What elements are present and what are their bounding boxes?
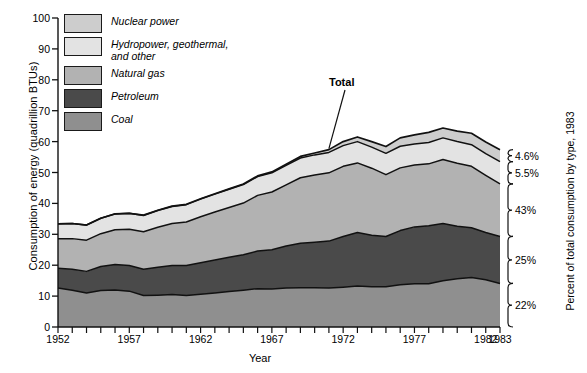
percent-label: 25%	[515, 254, 536, 266]
total-leader-line	[329, 90, 345, 149]
y-tick-label: 20	[22, 260, 50, 270]
x-tick-label: 1983	[480, 334, 520, 345]
legend-swatch-icon	[64, 14, 102, 33]
legend-swatch-icon	[64, 37, 102, 56]
x-tick-label: 1952	[38, 334, 78, 345]
y-tick-label: 90	[22, 44, 50, 54]
y-tick-label: 100	[22, 13, 50, 23]
y-tick-label: 30	[22, 229, 50, 239]
percent-label: 43%	[515, 204, 536, 216]
legend-item-label: Natural gas	[111, 66, 165, 80]
energy-consumption-area-chart: Consumption of energy (quadrillion BTUs)…	[0, 0, 587, 373]
right-axis-bracket	[508, 162, 513, 184]
y-tick-label: 50	[22, 168, 50, 178]
right-axis-bracket	[508, 283, 513, 327]
legend-item[interactable]: Coal	[64, 112, 228, 131]
y-tick-label: 80	[22, 75, 50, 85]
legend-item-label: Coal	[111, 112, 133, 126]
x-tick-label: 1977	[394, 334, 434, 345]
legend: Nuclear powerHydropower, geothermal, and…	[64, 14, 228, 135]
right-axis-bracket	[508, 150, 513, 162]
legend-swatch-icon	[64, 112, 102, 131]
percent-label: 22%	[515, 299, 536, 311]
y-tick-label: 40	[22, 198, 50, 208]
right-axis-bracket	[508, 236, 513, 283]
x-tick-label: 1967	[252, 334, 292, 345]
legend-item-label: Petroleum	[111, 89, 159, 103]
y-tick-label: 10	[22, 291, 50, 301]
x-tick-label: 1972	[323, 334, 363, 345]
legend-item[interactable]: Natural gas	[64, 66, 228, 85]
y-tick-label: 70	[22, 106, 50, 116]
legend-swatch-icon	[64, 89, 102, 108]
legend-item[interactable]: Petroleum	[64, 89, 228, 108]
x-tick-label: 1957	[109, 334, 149, 345]
y-tick-label: 60	[22, 137, 50, 147]
y-tick-label: 0	[22, 322, 50, 332]
percent-label: 5.5%	[515, 167, 539, 179]
legend-item-label: Nuclear power	[111, 14, 179, 28]
percent-label: 4.6%	[515, 150, 539, 162]
legend-item-label: Hydropower, geothermal, and other	[111, 37, 228, 62]
right-axis-bracket	[508, 184, 513, 237]
legend-swatch-icon	[64, 66, 102, 85]
total-annotation-label: Total	[329, 76, 354, 88]
legend-item[interactable]: Hydropower, geothermal, and other	[64, 37, 228, 62]
x-tick-label: 1962	[181, 334, 221, 345]
legend-item[interactable]: Nuclear power	[64, 14, 228, 33]
